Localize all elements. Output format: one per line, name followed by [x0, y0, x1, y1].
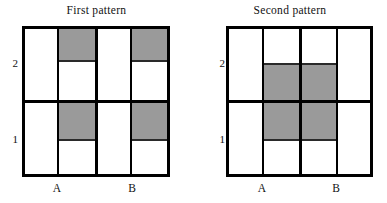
panel-second-col-label-a: A: [245, 182, 279, 195]
panel-second-row-label-2: 2: [209, 57, 225, 69]
panel-second-shade-r1-colB: [302, 103, 336, 141]
panel-second-hline-center: [229, 100, 370, 103]
panel-second-pattern-title: Second pattern: [193, 3, 387, 18]
panel-first-row-label-2: 2: [2, 57, 18, 69]
panel-second-row-label-1: 1: [209, 133, 225, 145]
panel-first-pattern-title: First pattern: [0, 3, 193, 18]
panel-second-col-label-b: B: [319, 182, 353, 195]
panel-first-shade-r1-colB: [132, 103, 167, 141]
panel-first-grid: [22, 26, 170, 177]
panel-first-row-label-1: 1: [2, 133, 18, 145]
panel-first-shade-r2-colB: [132, 29, 167, 62]
panel-second-shade-r2-colA: [264, 63, 299, 100]
panel-first-col-label-b: B: [115, 182, 149, 195]
panel-second-shade-r1-colA: [264, 103, 299, 141]
panel-second-grid: [226, 26, 373, 177]
panel-first-col-label-a: A: [40, 182, 74, 195]
panel-first-shade-r2-colA: [59, 29, 95, 62]
panel-second-pattern: Second pattern 2 1 A B: [193, 0, 387, 203]
panel-first-shade-r1-colA: [59, 103, 95, 141]
panel-second-shade-r2-colB: [302, 63, 336, 100]
panel-first-pattern: First pattern 2 1 A B: [0, 0, 193, 203]
two-pattern-figure: First pattern 2 1 A B Second pattern 2 1: [0, 0, 387, 203]
